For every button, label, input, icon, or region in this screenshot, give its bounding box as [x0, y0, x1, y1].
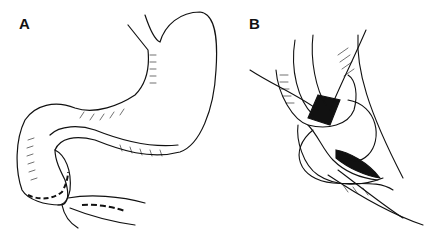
panel-b: B — [218, 0, 436, 239]
panel-a: A — [0, 0, 218, 239]
stomach-illustration — [0, 0, 218, 239]
pyloroplasty-illustration — [218, 0, 436, 239]
